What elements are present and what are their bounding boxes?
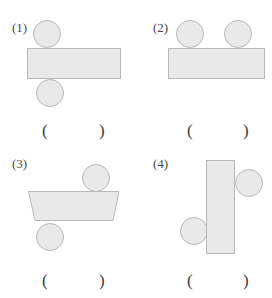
panel-2-label: (2) xyxy=(153,21,168,34)
panel-3-trapezoid xyxy=(26,189,122,223)
panel-4: (4) ( ) xyxy=(136,148,272,298)
panel-3-circle-top xyxy=(82,164,110,192)
panel-3-answer-open-paren: ( xyxy=(42,272,48,289)
worksheet-page: (1) ( ) (2) ( ) (3) ( ) (4) ( ) xyxy=(0,0,272,298)
panel-3-circle-bottom xyxy=(36,223,64,251)
panel-1: (1) ( ) xyxy=(0,0,136,148)
panel-4-circle-left xyxy=(180,217,208,245)
panel-2-circle-left xyxy=(176,20,204,48)
panel-4-circle-right xyxy=(235,169,263,197)
panel-3-label: (3) xyxy=(12,157,27,170)
panel-3-answer-close-paren: ) xyxy=(99,272,105,289)
panel-4-bar xyxy=(206,160,235,254)
panel-2-circle-right xyxy=(224,20,252,48)
panel-1-circle-bottom xyxy=(36,79,64,107)
panel-2-answer-close-paren: ) xyxy=(243,122,249,139)
panel-3: (3) ( ) xyxy=(0,148,136,298)
panel-2-bar xyxy=(168,48,265,79)
panel-2-answer-open-paren: ( xyxy=(187,122,193,139)
panel-4-answer-open-paren: ( xyxy=(187,272,193,289)
panel-1-circle-top xyxy=(33,20,61,48)
panel-1-label: (1) xyxy=(12,21,27,34)
panel-2: (2) ( ) xyxy=(136,0,272,148)
panel-1-answer-open-paren: ( xyxy=(42,122,48,139)
panel-4-label: (4) xyxy=(153,157,168,170)
panel-1-answer-close-paren: ) xyxy=(99,122,105,139)
panel-1-bar xyxy=(27,48,121,79)
panel-4-answer-close-paren: ) xyxy=(243,272,249,289)
